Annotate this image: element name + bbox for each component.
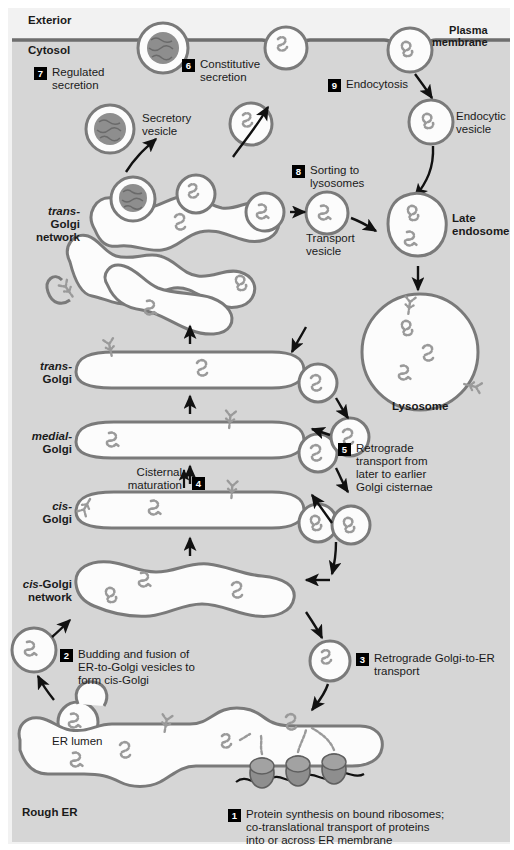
- step-badge-1: 1: [228, 809, 241, 822]
- step-text-6: Constitutive secretion: [200, 58, 260, 84]
- label-cytosol: Cytosol: [28, 44, 70, 57]
- label-transport-vesicle: Transport vesicle: [306, 232, 355, 258]
- step-1-protein-synthesis: 1 Protein synthesis on bound ribosomes; …: [228, 808, 444, 847]
- label-lysosome: Lysosome: [392, 400, 448, 413]
- step-text-3: Retrograde Golgi-to-ER transport: [374, 652, 495, 678]
- endocytic-vesicle: [409, 100, 453, 144]
- step-badge-9: 9: [328, 79, 341, 92]
- step-5-retrograde-transport: 5 Retrograde transport from later to ear…: [338, 442, 433, 494]
- label-medial-golgi-rest: Golgi: [43, 443, 72, 455]
- step-badge-2: 2: [60, 649, 73, 662]
- label-secretory-vesicle: Secretory vesicle: [142, 112, 191, 138]
- step-7-regulated-secretion: 7 Regulated secretion: [34, 66, 104, 92]
- label-er-lumen: ER lumen: [52, 735, 103, 748]
- step-badge-7: 7: [34, 67, 47, 80]
- label-cis-golgi-italic: cis-: [52, 500, 72, 512]
- er-to-golgi-vesicle-upper: [12, 628, 56, 672]
- budding-constitutive-vesicle: [177, 175, 215, 213]
- label-rough-er: Rough ER: [22, 806, 78, 819]
- step-8-sorting-to-lysosomes: 8 Sorting to lysosomes: [292, 164, 364, 190]
- label-tgn-rest: Golgi network: [36, 218, 80, 243]
- label-exterior: Exterior: [28, 14, 71, 27]
- step-text-4: Cisternal maturation: [124, 466, 182, 492]
- late-endosome: [388, 193, 446, 256]
- label-trans-golgi-italic: trans-: [40, 360, 72, 372]
- label-plasma-membrane: Plasma membrane: [432, 24, 488, 49]
- endocytic-pit: [388, 28, 432, 72]
- label-endocytic-vesicle: Endocytic vesicle: [456, 110, 506, 136]
- step-text-2: Budding and fusion of ER-to-Golgi vesicl…: [78, 648, 195, 687]
- step-badge-4: 4: [192, 477, 205, 490]
- step-text-1: Protein synthesis on bound ribosomes; co…: [246, 808, 444, 847]
- step-badge-8: 8: [292, 165, 305, 178]
- label-medial-golgi: medial- Golgi: [8, 430, 72, 456]
- label-cis-golgi: cis- Golgi: [14, 500, 72, 526]
- figure-root: Exterior Cytosol Plasma membrane 7 Regul…: [0, 0, 514, 850]
- label-cis-golgi-network: cis-Golgi network: [6, 578, 72, 604]
- step-badge-5: 5: [338, 443, 351, 456]
- label-cgn-italic: cis-: [23, 578, 43, 590]
- lysosome: [362, 294, 478, 410]
- step-3-retrograde-golgi-to-er: 3 Retrograde Golgi-to-ER transport: [356, 652, 495, 678]
- step-2-budding-and-fusion: 2 Budding and fusion of ER-to-Golgi vesi…: [60, 648, 195, 687]
- label-tgn-italic: trans-: [48, 205, 80, 217]
- step-text-8: Sorting to lysosomes: [310, 164, 364, 190]
- diagram-canvas: [0, 0, 514, 850]
- step-badge-6: 6: [182, 59, 195, 72]
- bound-ribosomes: [250, 754, 346, 788]
- label-trans-golgi-rest: Golgi: [43, 373, 72, 385]
- step-text-7: Regulated secretion: [52, 66, 104, 92]
- step-text-9: Endocytosis: [346, 78, 408, 91]
- step-6-constitutive-secretion: 6 Constitutive secretion: [182, 58, 260, 84]
- label-cgn-line: cis-Golgi network: [23, 578, 72, 603]
- label-cis-golgi-rest: Golgi: [43, 513, 72, 525]
- step-9-endocytosis: 9 Endocytosis: [328, 78, 408, 92]
- label-trans-golgi-network: trans- Golgi network: [22, 205, 80, 244]
- label-trans-golgi: trans- Golgi: [14, 360, 72, 386]
- label-late-endosome: Late endosome: [452, 212, 510, 238]
- diagram-stage: Exterior Cytosol Plasma membrane 7 Regul…: [0, 0, 514, 850]
- label-medial-golgi-italic: medial-: [32, 430, 72, 442]
- step-text-5: Retrograde transport from later to earli…: [356, 442, 433, 494]
- step-badge-3: 3: [356, 653, 369, 666]
